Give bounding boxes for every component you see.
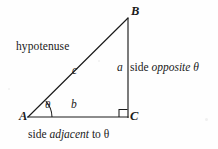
side-adjacent-keyword: adjacent [49, 128, 89, 140]
side-adjacent-annotation: side adjacent to θ [28, 129, 109, 141]
angle-label-theta: θ [45, 99, 50, 110]
side-length-label-b: b [71, 99, 77, 111]
scan-speck [205, 118, 208, 121]
side-opposite-annotation: side opposite θ [130, 62, 199, 74]
side-opposite-prefix: side [130, 61, 151, 73]
side-adjacent-prefix: side [28, 128, 49, 140]
triangle-figure: A B C a b c θ hypotenuse side opposite θ… [0, 0, 218, 149]
side-adjacent-suffix: to θ [89, 128, 109, 140]
scan-speck [8, 88, 10, 90]
scan-speck [98, 60, 100, 62]
vertex-label-a: A [19, 110, 27, 123]
side-opposite-suffix: θ [190, 61, 199, 73]
right-angle-mark [119, 110, 128, 118]
vertex-label-b: B [131, 5, 139, 18]
hypotenuse-line [28, 18, 128, 117]
triangle-geometry [0, 0, 218, 149]
vertex-label-c: C [130, 110, 138, 123]
side-length-label-a: a [117, 62, 123, 74]
side-length-label-c: c [72, 65, 77, 77]
side-opposite-keyword: opposite [151, 61, 190, 73]
hypotenuse-annotation: hypotenuse [16, 41, 69, 53]
